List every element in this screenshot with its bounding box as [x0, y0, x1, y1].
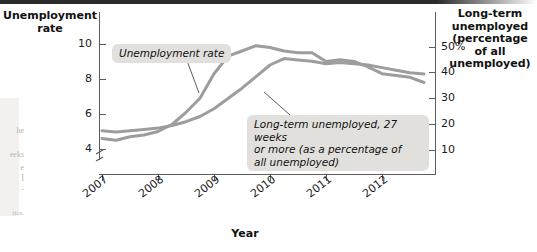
callout-longterm-line-3: all unemployed): [254, 156, 422, 169]
callout-leader-unemployment: [186, 58, 199, 93]
callout-long-term-unemployed: Long-term unemployed, 27 weeks or more (…: [247, 115, 429, 171]
callout-longterm-line-1: Long-term unemployed, 27 weeks: [254, 118, 422, 143]
callout-longterm-line-2: or more (as a percentage of: [254, 143, 422, 156]
callout-unemployment-rate: Unemployment rate: [112, 44, 231, 63]
callout-unemployment-text: Unemployment rate: [119, 47, 224, 59]
y-axis-break-mark: [96, 150, 103, 161]
callout-leader-longterm: [264, 92, 290, 115]
chart-figure: he eeks e l - tics. Unemployment rate Lo…: [0, 0, 537, 252]
